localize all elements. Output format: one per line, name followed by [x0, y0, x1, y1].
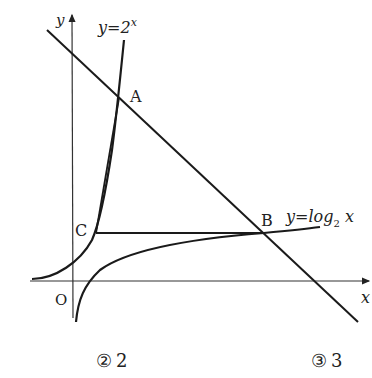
x-axis-label: x [361, 288, 370, 307]
exp-curve-label: y=2x [97, 16, 138, 37]
origin-label: O [55, 291, 67, 309]
exp-curve [32, 40, 124, 279]
choice-3: ③3 [311, 350, 342, 371]
log-curve-label: y=log2 x [285, 207, 354, 229]
segment-CA [96, 98, 119, 233]
graph-diagram: y x O y=2x y=log2 x A B C ②2 ③3 [0, 0, 372, 378]
point-B-label: B [261, 211, 273, 230]
y-axis [72, 15, 73, 318]
choice-2: ②2 [96, 350, 127, 371]
log-curve [76, 227, 320, 322]
point-C-label: C [75, 221, 87, 240]
point-A-label: A [129, 87, 142, 106]
y-axis-label: y [55, 11, 65, 29]
